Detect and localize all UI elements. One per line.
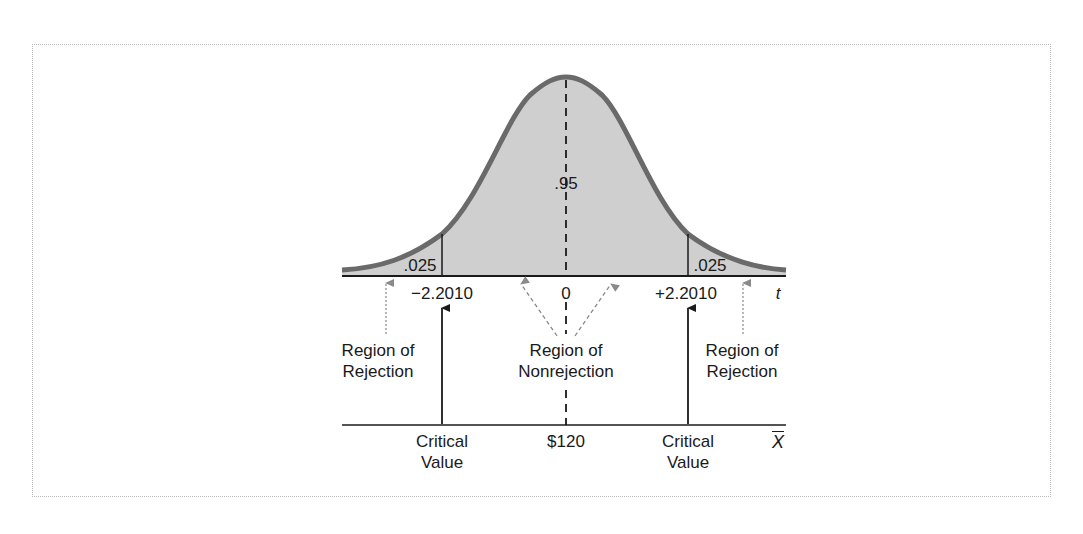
- t-tick-right: +2.2010: [646, 284, 726, 304]
- nonrejection-line2: Nonrejection: [506, 362, 626, 382]
- nonrejection-line1: Region of: [506, 341, 626, 361]
- left-rejection-line1: Region of: [328, 341, 428, 361]
- t-tick-center: 0: [546, 284, 586, 304]
- left-critical-value-line2: Value: [402, 453, 482, 473]
- left-rejection-line2: Rejection: [328, 362, 428, 382]
- xbar-center-label: $120: [531, 432, 601, 452]
- t-distribution-diagram: [0, 0, 1083, 534]
- right-tail-area-label: .025: [689, 256, 731, 276]
- left-tail-area-label: .025: [399, 256, 441, 276]
- t-axis-variable: t: [768, 284, 788, 304]
- right-critical-value-line2: Value: [648, 453, 728, 473]
- right-rejection-line1: Region of: [692, 341, 792, 361]
- left-critical-value-line1: Critical: [402, 432, 482, 452]
- xbar-axis-variable: X: [766, 432, 790, 452]
- t-tick-left: −2.2010: [402, 284, 482, 304]
- right-rejection-line2: Rejection: [692, 362, 792, 382]
- right-critical-value-line1: Critical: [648, 432, 728, 452]
- center-area-label: .95: [546, 174, 586, 194]
